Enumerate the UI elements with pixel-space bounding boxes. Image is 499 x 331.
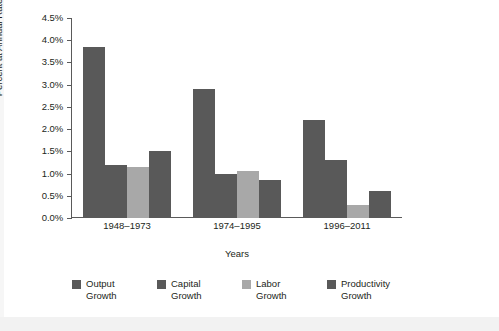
legend-swatch — [72, 280, 81, 289]
legend-swatch — [327, 280, 336, 289]
y-axis-tick-label: 0.5% — [42, 189, 63, 202]
chart-legend: Output GrowthCapital GrowthLabor GrowthP… — [72, 278, 412, 301]
bar — [259, 180, 281, 218]
bar-chart-figure: Percent at Annual Rate 0.0%0.5%1.0%1.5%2… — [0, 0, 499, 331]
y-axis-tick-label: 1.5% — [42, 144, 63, 157]
x-axis-category-label: 1948–1973 — [67, 220, 187, 231]
bar — [149, 151, 171, 218]
y-axis-tick: 0.0% — [67, 218, 72, 219]
y-axis-tick-label: 3.5% — [42, 55, 63, 68]
page-edge-bottom — [0, 317, 499, 331]
bar — [325, 160, 347, 218]
bar — [215, 174, 237, 218]
bar — [105, 165, 127, 218]
y-axis-tick-label: 1.0% — [42, 167, 63, 180]
legend-item: Productivity Growth — [327, 278, 412, 301]
legend-swatch — [242, 280, 251, 289]
y-axis-tick-label: 0.0% — [42, 211, 63, 224]
legend-label: Labor Growth — [256, 278, 287, 301]
bar-group: 1948–1973 — [72, 18, 182, 218]
y-axis-title: Percent at Annual Rate — [0, 0, 4, 108]
legend-label: Productivity Growth — [341, 278, 390, 301]
bar — [347, 205, 369, 218]
legend-swatch — [157, 280, 166, 289]
x-axis-title: Years — [72, 248, 402, 259]
y-axis-tick-label: 4.0% — [42, 33, 63, 46]
legend-item: Labor Growth — [242, 278, 327, 301]
y-axis-tick-label: 3.0% — [42, 78, 63, 91]
bar — [127, 167, 149, 218]
bar — [303, 120, 325, 218]
legend-label: Capital Growth — [171, 278, 202, 301]
y-axis-tick-label: 4.5% — [42, 11, 63, 24]
y-axis-tick-label: 2.0% — [42, 122, 63, 135]
bar-group: 1996–2011 — [292, 18, 402, 218]
bar — [83, 47, 105, 218]
bar — [193, 89, 215, 218]
legend-item: Output Growth — [72, 278, 157, 301]
y-axis-tick-label: 2.5% — [42, 100, 63, 113]
bar-group: 1974–1995 — [182, 18, 292, 218]
x-axis-category-label: 1974–1995 — [177, 220, 297, 231]
legend-item: Capital Growth — [157, 278, 242, 301]
x-axis-category-label: 1996–2011 — [287, 220, 407, 231]
plot-area: 0.0%0.5%1.0%1.5%2.0%2.5%3.0%3.5%4.0%4.5%… — [72, 18, 402, 218]
bar — [237, 171, 259, 218]
bar — [369, 191, 391, 218]
legend-label: Output Growth — [86, 278, 117, 301]
